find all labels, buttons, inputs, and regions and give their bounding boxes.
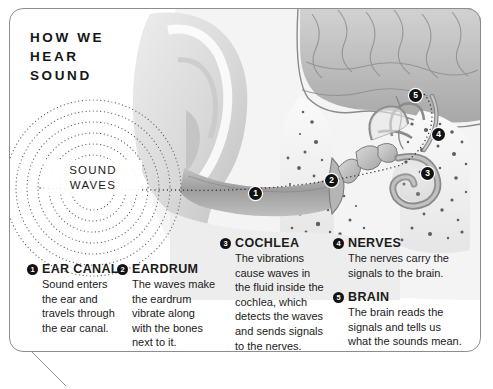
- step-ear-canal-number: 1: [27, 264, 38, 275]
- step-cochlea-body: The vibrations cause waves in the fluid …: [220, 251, 330, 353]
- step-nerves-body: The nerves carry the signals to the brai…: [333, 251, 461, 280]
- step-nerves-number: 4: [333, 238, 344, 249]
- step-nerves: 4 NERVES The nerves carry the signals to…: [333, 236, 461, 280]
- step-brain-number: 5: [333, 292, 344, 303]
- step-eardrum-number: 2: [117, 264, 128, 275]
- step-captions: 1 EAR CANAL Sound enters the ear and tra…: [0, 0, 493, 389]
- step-eardrum-body: The waves make the eardrum vibrate along…: [117, 277, 217, 350]
- step-cochlea-heading: 3 COCHLEA: [220, 236, 330, 250]
- step-eardrum-heading: 2 EARDRUM: [117, 262, 217, 276]
- step-cochlea: 3 COCHLEA The vibrations cause waves in …: [220, 236, 330, 353]
- step-ear-canal-heading: 1 EAR CANAL: [27, 262, 122, 276]
- step-brain-heading: 5 BRAIN: [333, 290, 465, 304]
- step-eardrum-title: EARDRUM: [132, 262, 198, 276]
- step-eardrum: 2 EARDRUM The waves make the eardrum vib…: [117, 262, 217, 350]
- step-ear-canal-body: Sound enters the ear and travels through…: [27, 277, 122, 335]
- step-brain-title: BRAIN: [348, 290, 389, 304]
- step-ear-canal: 1 EAR CANAL Sound enters the ear and tra…: [27, 262, 122, 335]
- step-brain-body: The brain reads the signals and tells us…: [333, 305, 465, 349]
- step-brain: 5 BRAIN The brain reads the signals and …: [333, 290, 465, 349]
- step-nerves-heading: 4 NERVES: [333, 236, 461, 250]
- step-cochlea-title: COCHLEA: [235, 236, 299, 250]
- step-ear-canal-title: EAR CANAL: [42, 262, 119, 276]
- step-cochlea-number: 3: [220, 238, 231, 249]
- how-we-hear-sound-infographic: HOW WE HEAR SOUND SOUND WAVES 1 2 3 4 5 …: [0, 0, 493, 389]
- step-nerves-title: NERVES: [348, 236, 401, 250]
